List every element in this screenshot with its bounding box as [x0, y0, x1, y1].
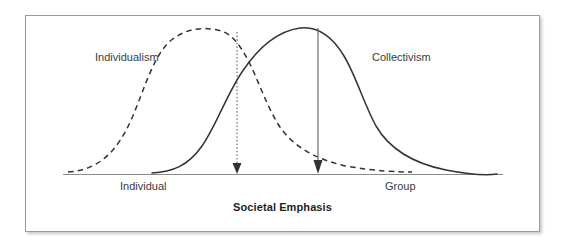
figure-frame	[25, 15, 540, 232]
collectivism-curve-label: Collectivism	[372, 51, 431, 64]
x-axis-tick-label-group: Group	[385, 180, 416, 193]
individualism-curve-label: Individualism	[95, 51, 159, 64]
figure-root: Individualism Collectivism Individual Gr…	[0, 0, 565, 249]
x-axis-tick-label-individual: Individual	[120, 180, 166, 193]
chart-title: Societal Emphasis	[0, 201, 565, 213]
